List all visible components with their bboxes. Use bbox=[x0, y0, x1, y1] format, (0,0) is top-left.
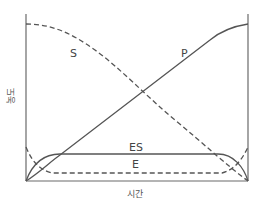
y-axis-title: 농도 bbox=[6, 88, 16, 104]
label-p: P bbox=[181, 47, 188, 60]
x-axis-title: 시간 bbox=[127, 189, 143, 199]
label-es: ES bbox=[129, 141, 143, 154]
label-s: S bbox=[70, 47, 77, 60]
label-e: E bbox=[132, 158, 139, 171]
enzyme-kinetics-chart: S P ES E 시간 농도 bbox=[0, 0, 260, 211]
